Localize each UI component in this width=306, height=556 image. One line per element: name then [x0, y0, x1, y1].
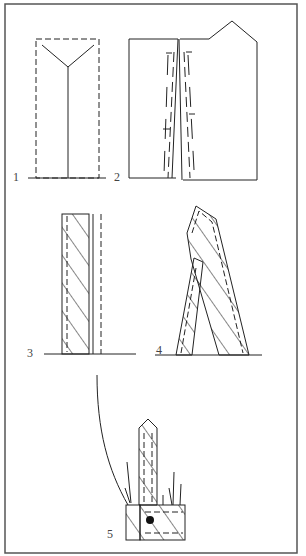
panel-3 — [44, 214, 136, 354]
panel-5-label: 5 — [107, 527, 113, 542]
panel-4 — [155, 206, 262, 355]
panel-5 — [97, 375, 185, 540]
panel-1 — [28, 39, 106, 178]
panel-3-label: 3 — [27, 346, 33, 361]
panel-2 — [129, 21, 257, 180]
panel-4-label: 4 — [156, 343, 162, 358]
diagram-canvas — [0, 0, 306, 556]
panel-1-label: 1 — [13, 170, 19, 185]
panel-2-label: 2 — [114, 170, 120, 185]
